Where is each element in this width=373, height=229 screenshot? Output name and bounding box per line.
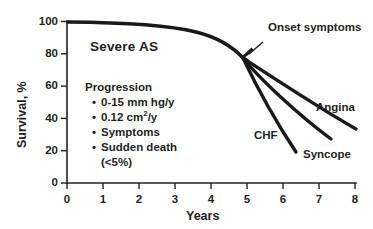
x-axis-title: Years bbox=[186, 210, 219, 223]
chart-figure: 100 80 60 40 20 0 0 1 2 3 4 5 6 7 8 Year… bbox=[0, 0, 373, 229]
progression-heading: Progression bbox=[85, 81, 177, 93]
y-tick-label-80: 80 bbox=[34, 48, 58, 60]
list-item: • Symptoms bbox=[92, 126, 177, 138]
x-tick-label-0: 0 bbox=[57, 194, 77, 206]
x-tick-label-7: 7 bbox=[309, 194, 329, 206]
y-axis-title: Survival, % bbox=[16, 81, 29, 148]
onset-symptoms-arrow bbox=[241, 42, 263, 59]
y-tick-label-40: 40 bbox=[34, 113, 58, 125]
chart-title: Severe AS bbox=[90, 40, 158, 54]
y-tick-label-0: 0 bbox=[34, 177, 58, 189]
y-tick-label-60: 60 bbox=[34, 80, 58, 92]
x-tick-label-4: 4 bbox=[201, 194, 221, 206]
annotation-syncope: Syncope bbox=[303, 149, 351, 161]
list-item: • 0.12 cm2/y bbox=[92, 111, 177, 123]
x-tick-label-5: 5 bbox=[237, 194, 257, 206]
progression-note: Progression • 0-15 mm hg/y • 0.12 cm2/y … bbox=[85, 81, 177, 168]
list-item-label: 0-15 mm hg/y bbox=[101, 96, 175, 108]
bullet-icon: • bbox=[92, 111, 96, 123]
annotation-onset-symptoms: Onset symptoms bbox=[268, 22, 361, 34]
x-tick-label-6: 6 bbox=[273, 194, 293, 206]
bullet-icon: • bbox=[92, 141, 96, 153]
x-axis-ticks bbox=[67, 183, 355, 189]
progression-continuation: (<5%) bbox=[85, 156, 177, 168]
list-item: • Sudden death bbox=[92, 141, 177, 153]
x-tick-label-8: 8 bbox=[345, 194, 365, 206]
x-tick-label-2: 2 bbox=[129, 194, 149, 206]
bullet-icon: • bbox=[92, 126, 96, 138]
y-tick-label-100: 100 bbox=[34, 16, 58, 28]
list-item-label: Symptoms bbox=[101, 126, 160, 138]
y-tick-label-20: 20 bbox=[34, 145, 58, 157]
annotation-angina: Angina bbox=[316, 102, 355, 114]
x-tick-label-3: 3 bbox=[165, 194, 185, 206]
list-item: • 0-15 mm hg/y bbox=[92, 96, 177, 108]
x-tick-label-1: 1 bbox=[93, 194, 113, 206]
y-axis-ticks bbox=[61, 22, 67, 184]
list-item-label: Sudden death bbox=[101, 141, 177, 153]
list-item-label: 0.12 cm bbox=[101, 111, 143, 123]
curve-syncope bbox=[243, 58, 331, 139]
progression-list: • 0-15 mm hg/y • 0.12 cm2/y • Symptoms •… bbox=[85, 96, 177, 153]
annotation-chf: CHF bbox=[254, 130, 278, 142]
list-item-label-tail: /y bbox=[148, 111, 158, 123]
bullet-icon: • bbox=[92, 96, 96, 108]
